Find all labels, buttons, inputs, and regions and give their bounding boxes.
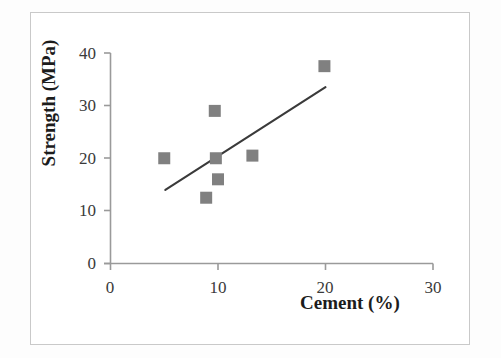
- y-tick-label-20: 20: [56, 150, 96, 167]
- axes-group: [104, 53, 433, 264]
- data-markers: [158, 60, 330, 204]
- data-point[interactable]: [200, 192, 212, 204]
- data-point[interactable]: [210, 152, 222, 164]
- figure-container: 40 30 20 10 0 0 10 20 30 Strength (MPa) …: [0, 0, 501, 358]
- data-point[interactable]: [246, 150, 258, 162]
- trend-line: [165, 87, 325, 190]
- data-point[interactable]: [212, 173, 224, 185]
- x-axis-title: Cement (%): [300, 292, 400, 314]
- data-point[interactable]: [209, 105, 221, 117]
- x-tick-label-30: 30: [413, 279, 453, 296]
- y-tick-marks: [104, 53, 111, 264]
- data-point[interactable]: [158, 152, 170, 164]
- data-point[interactable]: [318, 60, 330, 72]
- x-tick-label-10: 10: [198, 279, 238, 296]
- y-tick-label-40: 40: [56, 45, 96, 62]
- x-tick-marks: [111, 264, 434, 271]
- y-tick-label-30: 30: [56, 97, 96, 114]
- y-tick-label-0: 0: [56, 255, 96, 272]
- x-tick-label-0: 0: [90, 279, 130, 296]
- y-tick-label-10: 10: [56, 202, 96, 219]
- y-axis-title: Strength (MPa): [38, 8, 60, 198]
